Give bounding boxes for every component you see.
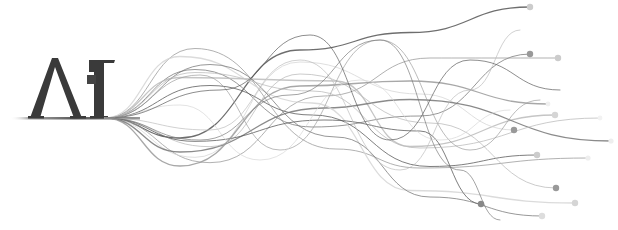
- wave-illustration: [0, 0, 618, 230]
- wave-end-dot: [527, 4, 533, 10]
- logo-letter-a: [30, 58, 82, 118]
- wave-end-dot: [572, 200, 578, 206]
- wave-end-dot: [511, 127, 517, 133]
- wave-end-dot: [546, 102, 551, 107]
- wave-line: [105, 35, 560, 140]
- wave-end-dot: [527, 51, 533, 57]
- logo-letter-i: [89, 60, 115, 118]
- wave-end-dot: [539, 213, 545, 219]
- wave-end-dot: [585, 155, 590, 160]
- wave-line: [105, 40, 500, 220]
- logo: [28, 58, 115, 119]
- wave-line: [105, 86, 537, 167]
- wave-end-dot: [555, 55, 561, 61]
- wave-end-dot: [534, 152, 540, 158]
- wave-end-dot: [478, 201, 484, 207]
- wave-lines: [105, 7, 611, 220]
- wave-line: [105, 58, 558, 163]
- wave-end-dot: [552, 112, 558, 118]
- wave-line: [105, 30, 520, 170]
- wave-end-dot: [553, 185, 559, 191]
- ai-logo-banner: [0, 0, 618, 230]
- wave-line: [105, 7, 530, 138]
- wave-end-dot: [608, 138, 613, 143]
- wave-line: [105, 74, 556, 188]
- logo-accent-square: [87, 75, 96, 84]
- wave-end-dot: [598, 116, 603, 121]
